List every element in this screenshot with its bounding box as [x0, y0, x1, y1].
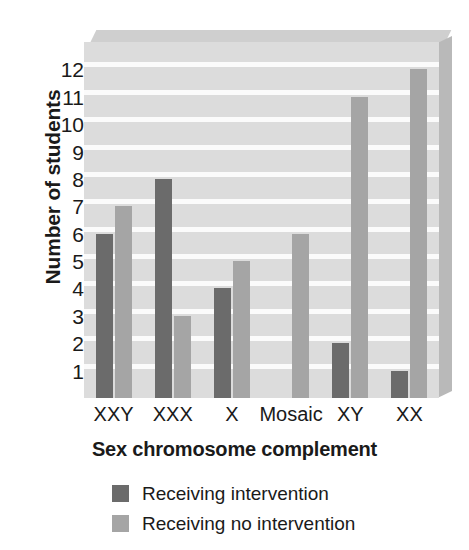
- x-axis-tick-label: XXX: [153, 402, 193, 426]
- y-axis-tick-label: 9: [48, 141, 84, 162]
- y-axis-tick-label: 8: [48, 168, 84, 189]
- bar-x-series0: [214, 288, 231, 398]
- x-axis-tick-labels: XXYXXXXMosaicXYXX: [84, 402, 439, 432]
- y-axis-tick-label: 6: [48, 223, 84, 244]
- bar-xx-series1: [410, 69, 427, 398]
- legend-label: Receiving intervention: [142, 484, 329, 503]
- plot-area-3d-shell: [84, 30, 452, 398]
- bar-xxx-series0: [155, 179, 172, 398]
- y-axis-tick-label: 7: [48, 196, 84, 217]
- bar-x-series1: [233, 261, 250, 398]
- bar-xxx-series1: [174, 316, 191, 398]
- x-axis-title: Sex chromosome complement: [0, 438, 469, 461]
- y-axis-tick-label: 5: [48, 251, 84, 272]
- bar-xxy-series1: [115, 206, 132, 398]
- bar-series-container: [84, 42, 439, 398]
- y-axis-tick-label: 10: [48, 114, 84, 135]
- y-axis-tick-labels: 123456789101112: [48, 58, 84, 388]
- bar-xy-series0: [332, 343, 349, 398]
- x-axis-tick-label: XX: [396, 402, 423, 426]
- chart-legend: Receiving interventionReceiving no inter…: [112, 478, 452, 538]
- y-axis-tick-label: 1: [48, 360, 84, 381]
- legend-swatch-icon: [112, 515, 129, 532]
- y-axis-tick-label: 12: [48, 59, 84, 80]
- plot-right-bevel: [439, 36, 452, 397]
- x-axis-tick-label: Mosaic: [259, 402, 322, 426]
- bar-xy-series1: [351, 97, 368, 398]
- y-axis-tick-label: 11: [48, 86, 84, 107]
- y-axis-tick-label: 2: [48, 333, 84, 354]
- y-axis-tick-label: 3: [48, 305, 84, 326]
- y-axis-tick-label: 4: [48, 278, 84, 299]
- bar-xx-series0: [391, 371, 408, 398]
- bar-xxy-series0: [96, 234, 113, 398]
- bar-chart-figure: Number of students 123456789101112 XXYXX…: [0, 0, 469, 550]
- x-axis-tick-label: XY: [337, 402, 364, 426]
- x-axis-tick-label: XXY: [94, 402, 134, 426]
- legend-label: Receiving no intervention: [142, 514, 355, 533]
- legend-swatch-icon: [112, 485, 129, 502]
- legend-item[interactable]: Receiving intervention: [112, 478, 452, 508]
- legend-item[interactable]: Receiving no intervention: [112, 508, 452, 538]
- bar-mosaic-series1: [292, 234, 309, 398]
- x-axis-tick-label: X: [225, 402, 238, 426]
